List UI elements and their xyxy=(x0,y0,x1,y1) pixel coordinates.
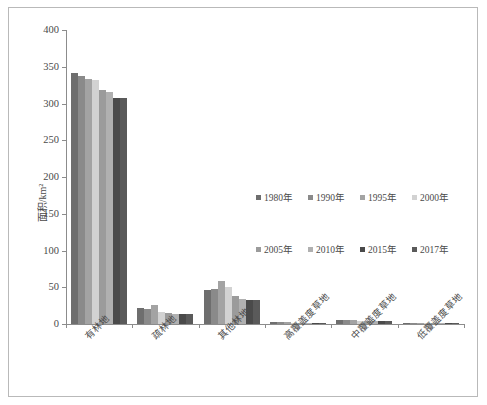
x-axis-tick-mark xyxy=(265,324,266,328)
y-axis-tick-label: 50 xyxy=(49,282,60,293)
legend-item[interactable]: 1990年 xyxy=(308,190,360,204)
bar-group xyxy=(132,30,198,324)
bar xyxy=(385,321,392,324)
bar xyxy=(71,73,78,324)
bar xyxy=(452,323,459,324)
y-axis-tick-label: 150 xyxy=(43,209,59,220)
legend-swatch-icon xyxy=(412,195,417,200)
legend-row: 1980年1990年1995年2000年 xyxy=(256,190,464,204)
x-axis-tick-mark xyxy=(331,324,332,328)
bar-group xyxy=(66,30,132,324)
legend-item-label: 1995年 xyxy=(368,190,397,204)
bar xyxy=(270,322,277,324)
bar xyxy=(445,323,452,324)
legend-item[interactable]: 1995年 xyxy=(360,190,412,204)
legend-swatch-icon xyxy=(256,195,261,200)
legend-swatch-icon xyxy=(256,247,261,252)
bar xyxy=(218,281,225,324)
bar xyxy=(106,92,113,324)
y-axis-tick-label: 250 xyxy=(43,135,59,146)
bar xyxy=(179,314,186,324)
y-axis-tick-label: 100 xyxy=(43,245,59,256)
bar xyxy=(410,323,417,324)
bar xyxy=(186,314,193,324)
y-axis-tick-label: 400 xyxy=(43,25,59,36)
bar xyxy=(78,76,85,324)
bar xyxy=(336,320,343,324)
chart-figure: 面积/km² 050100150200250300350400 有林地疏林地其他… xyxy=(0,0,487,405)
bar xyxy=(85,79,92,324)
legend-item-label: 2017年 xyxy=(420,242,449,256)
bar xyxy=(253,300,260,324)
bar xyxy=(204,290,211,324)
y-axis-tick-label: 300 xyxy=(43,98,59,109)
bar xyxy=(144,309,151,324)
bar xyxy=(211,289,218,324)
legend-swatch-icon xyxy=(308,247,313,252)
legend-item[interactable]: 1980年 xyxy=(256,190,308,204)
legend-swatch-icon xyxy=(360,195,365,200)
legend-item-label: 2005年 xyxy=(264,242,293,256)
legend-item-label: 2015年 xyxy=(368,242,397,256)
legend-item-label: 1990年 xyxy=(316,190,345,204)
bar xyxy=(378,321,385,324)
x-axis-tick-mark xyxy=(132,324,133,328)
legend-item[interactable]: 2000年 xyxy=(412,190,464,204)
legend-swatch-icon xyxy=(308,195,313,200)
legend-item-label: 2010年 xyxy=(316,242,345,256)
bar xyxy=(319,323,326,324)
bar xyxy=(277,322,284,324)
x-axis-tick-mark xyxy=(464,324,465,328)
legend-item[interactable]: 2015年 xyxy=(360,242,412,256)
legend-swatch-icon xyxy=(360,247,365,252)
bar xyxy=(99,90,106,324)
bar xyxy=(343,320,350,324)
legend-item[interactable]: 2010年 xyxy=(308,242,360,256)
legend-item[interactable]: 2005年 xyxy=(256,242,308,256)
bar xyxy=(312,323,319,324)
y-axis-tick-label: 0 xyxy=(54,319,59,330)
x-axis-tick-mark xyxy=(66,324,67,328)
x-axis-tick-mark xyxy=(199,324,200,328)
bar xyxy=(92,80,99,324)
y-axis-tick-label: 350 xyxy=(43,62,59,73)
y-axis-tick-label: 200 xyxy=(43,172,59,183)
chart-legend: 1980年1990年1995年2000年2005年2010年2015年2017年 xyxy=(256,190,464,294)
legend-item-label: 1980年 xyxy=(264,190,293,204)
bar xyxy=(403,323,410,324)
legend-swatch-icon xyxy=(412,247,417,252)
bar xyxy=(113,98,120,324)
legend-row: 2005年2010年2015年2017年 xyxy=(256,242,464,256)
bar xyxy=(137,308,144,324)
x-axis-tick-mark xyxy=(398,324,399,328)
legend-item[interactable]: 2017年 xyxy=(412,242,464,256)
bar xyxy=(120,98,127,324)
legend-item-label: 2000年 xyxy=(420,190,449,204)
